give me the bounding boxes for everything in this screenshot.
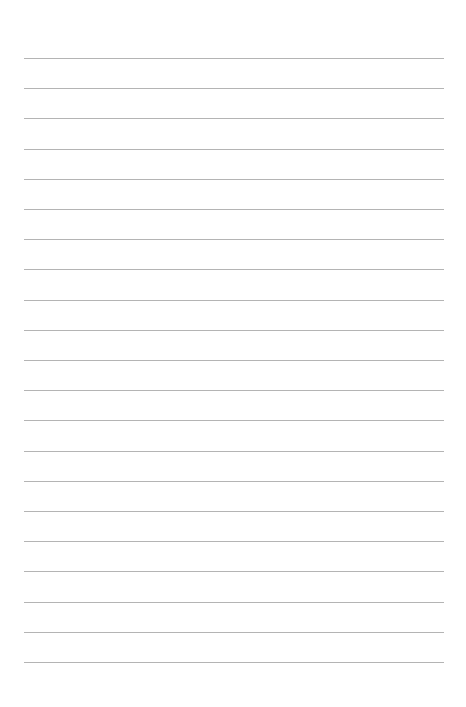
ruled-line <box>24 360 444 361</box>
ruled-line <box>24 602 444 603</box>
ruled-line <box>24 481 444 482</box>
ruled-line <box>24 662 444 663</box>
ruled-line <box>24 571 444 572</box>
ruled-line <box>24 451 444 452</box>
ruled-line <box>24 390 444 391</box>
lined-paper-sheet <box>0 0 466 707</box>
ruled-line <box>24 239 444 240</box>
ruled-line <box>24 541 444 542</box>
ruled-line <box>24 58 444 59</box>
ruled-line <box>24 149 444 150</box>
ruled-line <box>24 300 444 301</box>
ruled-line <box>24 330 444 331</box>
ruled-line <box>24 420 444 421</box>
ruled-line <box>24 118 444 119</box>
ruled-line <box>24 179 444 180</box>
ruled-line <box>24 632 444 633</box>
ruled-line <box>24 269 444 270</box>
ruled-line <box>24 511 444 512</box>
ruled-line <box>24 88 444 89</box>
ruled-line <box>24 209 444 210</box>
